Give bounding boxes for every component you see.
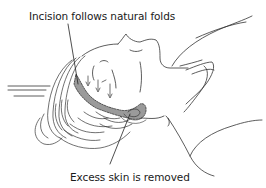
excess-skin-region bbox=[74, 74, 146, 123]
hair bbox=[35, 56, 132, 149]
incision-leader-line bbox=[68, 24, 78, 84]
excess-skin-leader-line bbox=[110, 114, 130, 164]
neck-shoulders bbox=[166, 16, 262, 176]
lift-arrows bbox=[86, 76, 112, 98]
pillow-lines bbox=[8, 86, 50, 96]
face-lift-drawing bbox=[0, 0, 266, 188]
figure-canvas: Incision follows natural folds Excess sk… bbox=[0, 0, 266, 188]
excess-skin-label: Excess skin is removed bbox=[70, 171, 190, 183]
incision-label: Incision follows natural folds bbox=[29, 10, 175, 22]
